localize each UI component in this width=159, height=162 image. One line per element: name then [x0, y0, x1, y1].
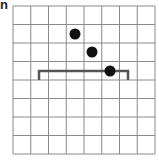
- dot: [87, 47, 98, 58]
- dot: [105, 66, 116, 77]
- grid-diagram: [0, 0, 159, 162]
- dot: [70, 29, 81, 40]
